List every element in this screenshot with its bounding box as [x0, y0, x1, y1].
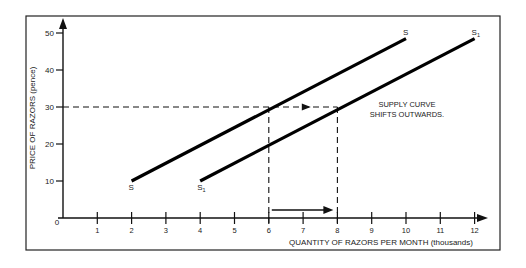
- y-ticks: 1020304050: [45, 29, 63, 186]
- y-tick-label: 10: [45, 177, 54, 186]
- x-tick-label: 3: [164, 226, 168, 235]
- x-axis-label: QUANTITY OF RAZORS PER MONTH (thousands): [289, 238, 473, 247]
- y-axis-arrow-icon: [59, 18, 67, 29]
- curve-end-label: S1: [472, 28, 480, 38]
- x-tick-label: 9: [370, 226, 374, 235]
- supply-shift-chart: 1020304050 123456789101112 0 PRICE OF RA…: [0, 0, 526, 268]
- x-tick-label: 6: [267, 226, 271, 235]
- x-axis-arrow-icon: [477, 214, 488, 222]
- y-tick-label: 40: [45, 66, 54, 75]
- x-tick-label: 11: [436, 226, 444, 235]
- curve-start-label: S: [129, 183, 134, 192]
- x-tick-label: 10: [402, 226, 410, 235]
- y-tick-label: 30: [45, 103, 54, 112]
- y-tick-label: 20: [45, 140, 54, 149]
- y-tick-label: 50: [45, 29, 54, 38]
- x-tick-label: 4: [198, 226, 202, 235]
- curve-start-label: S1: [197, 183, 205, 193]
- curve-end-label: S: [403, 28, 408, 37]
- x-tick-label: 8: [335, 226, 339, 235]
- y-axis-label: PRICE OF RAZORS (pence): [28, 66, 37, 169]
- x-tick-label: 7: [301, 226, 305, 235]
- shift-arrow-icon: [302, 104, 311, 111]
- reference-lines: [63, 104, 337, 225]
- x-ticks: 123456789101112: [95, 212, 479, 235]
- annotation-line-2: SHIFTS OUTWARDS.: [370, 110, 444, 119]
- origin-label: 0: [55, 218, 60, 227]
- x-tick-label: 2: [130, 226, 134, 235]
- x-tick-label: 12: [470, 226, 478, 235]
- quantity-shift-arrow-icon: [323, 206, 333, 214]
- x-tick-label: 1: [95, 226, 99, 235]
- annotation-line-1: SUPPLY CURVE: [378, 100, 435, 109]
- x-tick-label: 5: [232, 226, 236, 235]
